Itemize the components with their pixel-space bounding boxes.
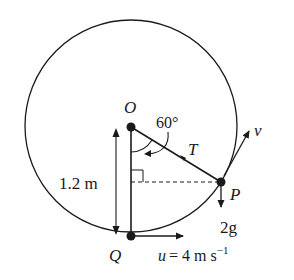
label-angle: 60° <box>156 114 178 131</box>
label-O: O <box>124 98 136 117</box>
angle-pointer-head-icon <box>144 150 151 157</box>
circle-motion-diagram: O 60° T v P 2g 1.2 m Q u= 4 m s−1 <box>0 0 294 280</box>
label-T: T <box>188 140 199 159</box>
point-Q <box>127 232 136 241</box>
label-P: P <box>229 185 240 204</box>
point-P <box>217 178 226 187</box>
diagram-canvas: O 60° T v P 2g 1.2 m Q u= 4 m s−1 <box>0 0 294 280</box>
string-OP <box>131 127 221 182</box>
label-initial-speed: u= 4 m s−1 <box>158 244 228 264</box>
label-Q: Q <box>109 246 121 265</box>
label-length: 1.2 m <box>59 174 98 193</box>
right-angle-icon <box>131 170 143 182</box>
label-v: v <box>254 121 262 140</box>
point-O <box>127 123 136 132</box>
angle-arc <box>131 140 152 152</box>
arrow-up-icon <box>113 128 120 137</box>
label-weight: 2g <box>220 218 238 237</box>
